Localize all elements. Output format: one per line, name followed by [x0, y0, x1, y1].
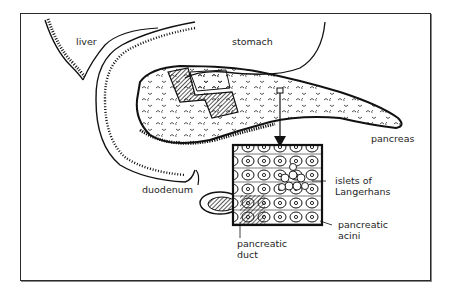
- pancreas-shape: [137, 66, 402, 143]
- label-islets-of-langerhans: islets of Langerhans: [335, 175, 391, 197]
- label-pancreatic-duct: pancreatic duct: [237, 238, 287, 260]
- label-acini-line2: acini: [338, 230, 388, 241]
- anatomy-drawing: [0, 0, 449, 292]
- label-duodenum: duodenum: [142, 184, 193, 195]
- label-islets-line2: Langerhans: [335, 186, 391, 197]
- tissue-magnification: [233, 145, 322, 225]
- liver-shape: [45, 19, 158, 80]
- pancreas-diagram: liver stomach pancreas duodenum islets o…: [0, 0, 449, 292]
- label-duct-line1: pancreatic: [237, 238, 287, 249]
- label-duct-line2: duct: [237, 249, 287, 260]
- label-pancreatic-acini: pancreatic acini: [338, 219, 388, 241]
- label-liver: liver: [76, 36, 97, 47]
- label-pancreas: pancreas: [371, 133, 414, 144]
- label-stomach: stomach: [232, 36, 273, 47]
- label-acini-line1: pancreatic: [338, 219, 388, 230]
- label-islets-line1: islets of: [335, 175, 391, 186]
